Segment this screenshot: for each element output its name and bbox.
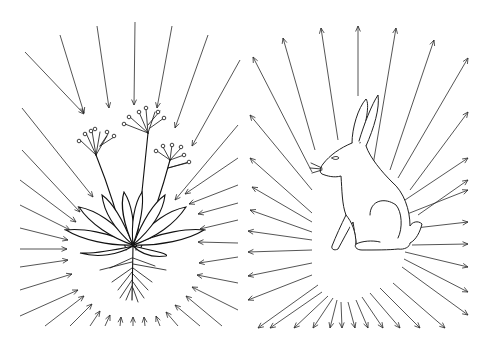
hare-illustration [0,0,490,351]
diagram-canvas [0,0,490,351]
hare [310,95,422,250]
